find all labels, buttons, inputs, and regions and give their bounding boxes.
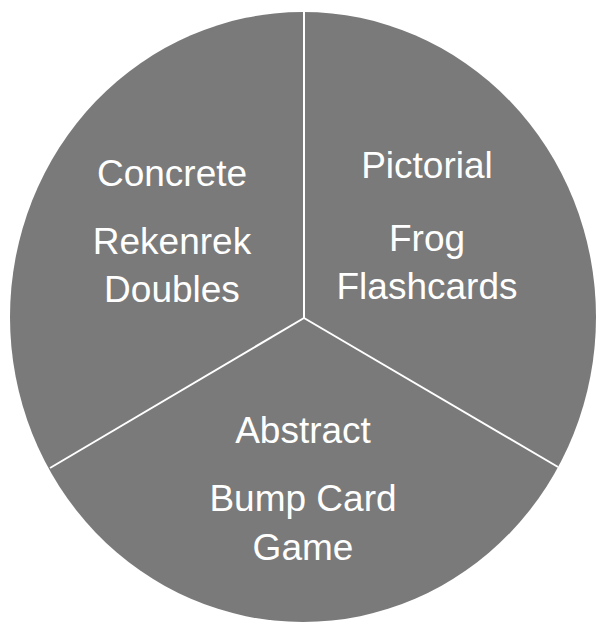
section-pictorial-title: Pictorial [361, 142, 493, 190]
section-concrete-activity-line2: Doubles [104, 266, 240, 314]
section-concrete-activity-line1: Rekenrek [93, 218, 251, 266]
section-pictorial-activity-line2: Flashcards [337, 263, 518, 311]
section-abstract-title: Abstract [235, 407, 371, 455]
section-concrete-title: Concrete [97, 150, 247, 198]
section-abstract-activity-line2: Game [253, 524, 354, 572]
section-abstract-activity-line1: Bump Card [209, 475, 396, 523]
section-pictorial-activity-line1: Frog [389, 215, 465, 263]
